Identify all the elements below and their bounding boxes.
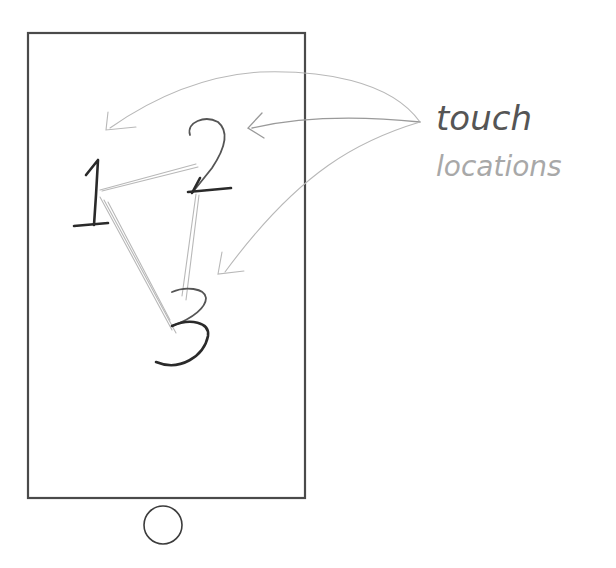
annotation-arrows xyxy=(106,72,420,274)
touch-connections xyxy=(100,164,199,333)
arrowhead-icon xyxy=(218,252,244,274)
connection-1-3 xyxy=(100,197,172,330)
home-button-icon xyxy=(144,506,182,544)
phone-screen-frame xyxy=(28,33,305,498)
annotation-label-line2: locations xyxy=(436,150,562,183)
annotation-label-line1: touch xyxy=(436,98,532,138)
touch-point-1 xyxy=(74,160,108,226)
connection-1-2 xyxy=(100,164,196,190)
connection-2-3 xyxy=(182,194,196,296)
touch-point-3 xyxy=(156,289,208,365)
sketch-canvas: touch locations xyxy=(0,0,616,568)
touch-point-2 xyxy=(188,119,231,193)
